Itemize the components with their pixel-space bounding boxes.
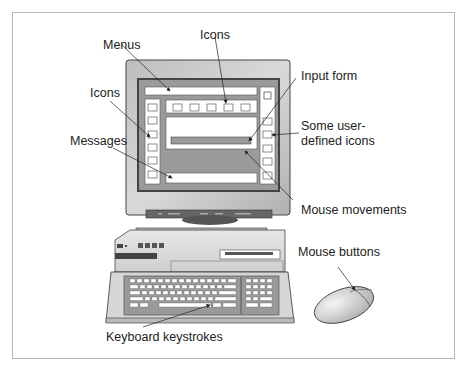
message-bar: [166, 173, 257, 183]
label-menus: Menus: [103, 38, 141, 52]
label-mouse-movements: Mouse movements: [301, 203, 407, 217]
label-user-icons-1: Some user-: [301, 119, 366, 133]
keyboard: [106, 272, 294, 323]
label-user-icons-2: defined icons: [301, 134, 375, 148]
label-icons-top: Icons: [200, 28, 230, 42]
label-keyboard-keystrokes: Keyboard keystrokes: [106, 330, 223, 344]
input-field: [171, 137, 251, 144]
label-messages: Messages: [70, 134, 127, 148]
label-icons-left: Icons: [90, 86, 120, 100]
menu-bar: [145, 87, 257, 95]
computer-illustration: [0, 0, 467, 373]
monitor: [126, 60, 290, 225]
label-input-form: Input form: [301, 69, 357, 83]
mouse: [309, 279, 378, 330]
label-mouse-buttons: Mouse buttons: [298, 245, 380, 259]
system-unit: [115, 228, 285, 272]
screen: [139, 80, 278, 190]
